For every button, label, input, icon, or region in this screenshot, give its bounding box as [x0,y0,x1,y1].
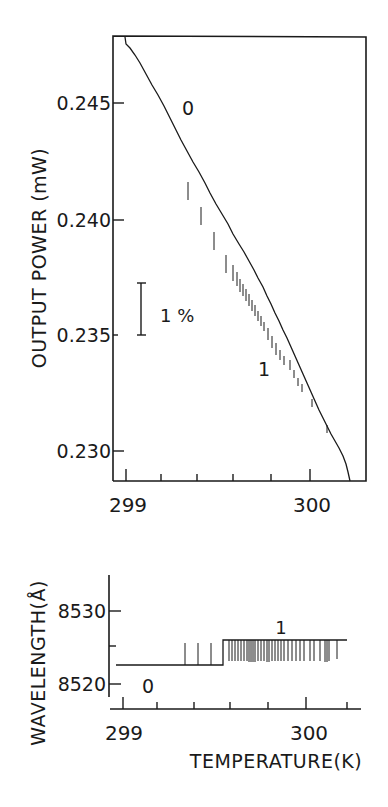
power-chart: 0.245 0.240 0.235 0.230 299 300 OUTPUT P… [28,36,366,517]
x-tick-label: 300 [290,721,328,745]
scale-bar-label: 1 % [160,305,194,326]
y-axis-label: OUTPUT POWER (mW) [28,148,50,369]
x-axis-label: TEMPERATURE(K) [189,750,362,772]
x-tick-label: 300 [293,493,331,517]
mode-1-label: 1 [258,358,270,380]
y-tick-label: 8520 [58,673,106,695]
mode-0-label: 0 [142,675,154,697]
y-tick-label: 8530 [58,600,106,622]
scale-bar [137,283,146,335]
y-tick-label: 0.245 [57,92,111,114]
y-tick-label: 0.230 [57,440,111,462]
mode-0-label: 0 [182,97,194,119]
y-tick-label: 0.235 [57,324,111,346]
power-chart-frame [113,36,366,481]
x-tick-label: 299 [105,721,143,745]
power-spikes [188,182,327,433]
wavelength-chart: 8530 8520 299 300 TEMPERATURE(K) WAVELEN… [27,575,362,772]
y-axis-label: WAVELENGTH(Å) [27,580,49,746]
figure: 0.245 0.240 0.235 0.230 299 300 OUTPUT P… [0,0,388,807]
y-tick-label: 0.240 [57,209,111,231]
wavelength-spikes [185,640,337,665]
power-curve [125,37,350,481]
x-tick-label: 299 [109,493,147,517]
mode-1-label: 1 [275,617,286,638]
